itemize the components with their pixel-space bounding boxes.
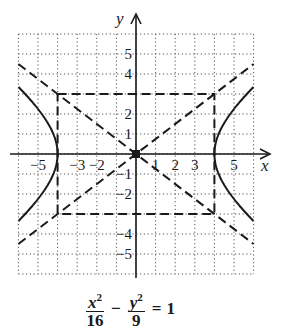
equals-sign: =: [152, 299, 162, 319]
numerator-x: x: [88, 293, 97, 312]
exponent: 2: [137, 291, 143, 303]
origin-marker: [132, 150, 140, 158]
y-tick-label: −5: [116, 246, 132, 262]
y-tick-label: −1: [116, 166, 132, 182]
x-tick-label: −5: [30, 157, 46, 173]
x-tick-label: 5: [230, 157, 238, 173]
denominator-16: 16: [87, 312, 104, 330]
x-tick-label: 1: [152, 157, 160, 173]
exponent: 2: [97, 291, 103, 303]
rhs-value: 1: [166, 299, 175, 319]
y-tick-label: 4: [125, 66, 133, 82]
y-tick-label: −4: [116, 226, 132, 242]
y-tick-label: 5: [125, 46, 133, 62]
y-tick-label: 1: [125, 126, 133, 142]
x-tick-label: 2: [171, 157, 179, 173]
hyperbola-graph: −5−3−212355421−1−2−4−5 x y: [0, 0, 281, 290]
x-axis-label: x: [260, 156, 269, 175]
denominator-9: 9: [132, 312, 141, 330]
equation: x2 16 − y2 9 = 1: [84, 289, 175, 330]
y-tick-label: −2: [116, 186, 132, 202]
fraction-y: y2 9: [128, 289, 145, 330]
x-tick-label: −2: [89, 157, 105, 173]
minus-sign: −: [111, 299, 121, 319]
x-tick-label: −3: [69, 157, 85, 173]
x-tick-label: 3: [191, 157, 199, 173]
y-axis-label: y: [114, 9, 124, 28]
y-tick-label: 2: [125, 106, 133, 122]
fraction-x: x2 16: [86, 289, 104, 330]
